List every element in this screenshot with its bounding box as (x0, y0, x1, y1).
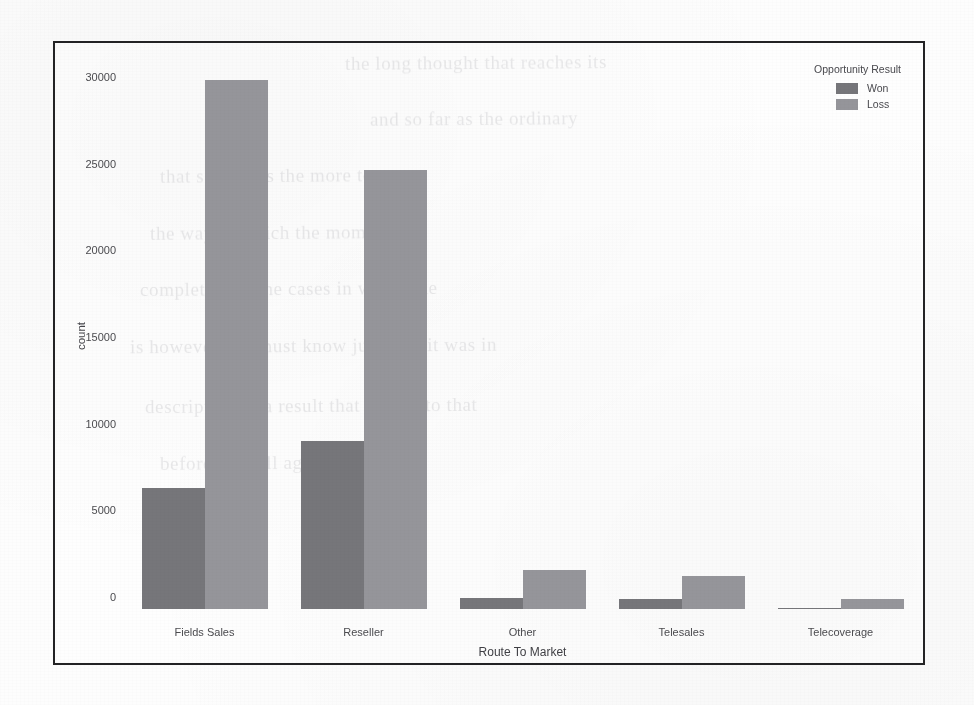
bar-loss[interactable] (205, 80, 268, 609)
bar-group: Fields Sales (142, 63, 268, 609)
bar-won[interactable] (301, 441, 364, 609)
x-axis-label: Route To Market (479, 645, 567, 659)
bar-won[interactable] (619, 599, 682, 609)
bar-won[interactable] (460, 598, 523, 609)
bar-loss[interactable] (364, 170, 427, 609)
legend-entries: WonLoss (814, 82, 901, 110)
x-axis-tick-label: Telesales (592, 626, 772, 638)
bar-loss[interactable] (523, 570, 586, 609)
x-axis-tick-label: Other (433, 626, 613, 638)
bar-loss[interactable] (682, 576, 745, 609)
legend-entry-won[interactable]: Won (836, 82, 901, 94)
y-axis-tick-label: 15000 (85, 331, 116, 343)
scanned-page: the long thought that reaches its and so… (0, 0, 974, 705)
bar-group: Telecoverage (778, 63, 904, 609)
chart-figure: count 050001000015000200002500030000 Fie… (53, 41, 925, 665)
chart-axes: count 050001000015000200002500030000 Fie… (125, 63, 920, 609)
x-axis-tick-label: Reseller (274, 626, 454, 638)
x-axis-tick-label: Fields Sales (115, 626, 295, 638)
bar-group: Telesales (619, 63, 745, 609)
bar-group: Other (460, 63, 586, 609)
bar-group: Reseller (301, 63, 427, 609)
chart-legend: Opportunity Result WonLoss (814, 63, 901, 114)
legend-swatch-icon (836, 83, 858, 94)
plot-area: count 050001000015000200002500030000 Fie… (55, 43, 923, 663)
legend-entry-loss[interactable]: Loss (836, 98, 901, 110)
legend-label: Loss (867, 98, 889, 110)
legend-label: Won (867, 82, 888, 94)
y-axis-tick-label: 20000 (85, 244, 116, 256)
bar-won[interactable] (778, 608, 841, 610)
y-axis-tick-label: 30000 (85, 71, 116, 83)
bar-won[interactable] (142, 488, 205, 609)
legend-swatch-icon (836, 99, 858, 110)
y-axis-tick-label: 25000 (85, 158, 116, 170)
y-axis-tick-label: 10000 (85, 418, 116, 430)
bar-loss[interactable] (841, 599, 904, 609)
x-axis-tick-label: Telecoverage (751, 626, 931, 638)
y-axis-tick-label: 5000 (92, 504, 116, 516)
y-axis-tick-label: 0 (110, 591, 116, 603)
legend-title: Opportunity Result (814, 63, 901, 75)
